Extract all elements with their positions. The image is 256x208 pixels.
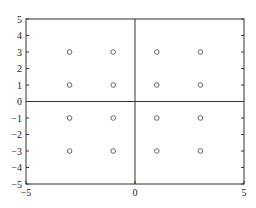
- y-tick-label: 2: [17, 63, 22, 74]
- data-point-marker: [198, 50, 203, 55]
- x-tick-label: 5: [242, 187, 247, 198]
- data-point-marker: [67, 149, 72, 154]
- data-point-marker: [155, 149, 160, 154]
- y-tick-label: −4: [11, 162, 22, 173]
- scatter-chart: −5−4−3−2−1012345 −505: [0, 0, 256, 208]
- x-tick-label: 0: [133, 187, 138, 198]
- y-tick-label: 0: [17, 96, 22, 107]
- data-point-marker: [67, 116, 72, 121]
- y-tick-label: 5: [17, 14, 22, 25]
- data-point-marker: [67, 83, 72, 88]
- data-point-marker: [155, 50, 160, 55]
- data-point-marker: [155, 83, 160, 88]
- data-point-marker: [111, 116, 116, 121]
- data-point-marker: [111, 149, 116, 154]
- reference-lines: [26, 19, 244, 184]
- y-tick-label: −1: [11, 113, 22, 124]
- y-tick-label: 4: [17, 30, 22, 41]
- data-point-marker: [198, 83, 203, 88]
- data-point-marker: [111, 83, 116, 88]
- data-point-marker: [198, 116, 203, 121]
- y-tick-label: −2: [11, 129, 22, 140]
- data-point-marker: [155, 116, 160, 121]
- y-tick-label: 1: [17, 80, 22, 91]
- data-point-marker: [111, 50, 116, 55]
- data-point-marker: [67, 50, 72, 55]
- data-point-marker: [198, 149, 203, 154]
- y-tick-label: 3: [17, 47, 22, 58]
- y-tick-label: −3: [11, 146, 22, 157]
- x-tick-label: −5: [21, 187, 32, 198]
